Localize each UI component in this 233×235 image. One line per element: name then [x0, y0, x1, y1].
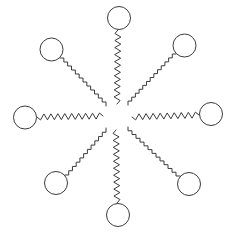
molecule-left-head — [14, 106, 37, 129]
radial-molecule-diagram — [0, 0, 233, 235]
figure-canvas — [0, 0, 233, 235]
molecule-top-head — [108, 7, 131, 30]
molecule-bottom-right-head — [178, 173, 201, 196]
molecule-top-right-head — [173, 34, 196, 57]
molecule-right-head — [200, 103, 223, 126]
molecule-top-left-head — [40, 38, 63, 61]
molecule-bottom-head — [107, 204, 130, 227]
molecule-bottom-left-head — [45, 172, 68, 195]
